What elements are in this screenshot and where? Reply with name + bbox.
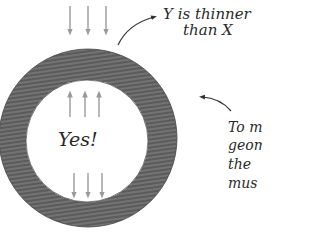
note-line-2: geom	[228, 138, 262, 152]
pointer-arrow-from-note	[202, 97, 231, 111]
label-y-thinner: Y is thinner	[163, 6, 251, 22]
label-yes: Yes!	[58, 128, 98, 150]
note-line-4: mus	[228, 176, 257, 190]
label-than-x: than X	[183, 22, 233, 38]
note-line-1: To m	[228, 120, 262, 134]
top-arrows-down	[70, 6, 106, 32]
pointer-arrow-to-label	[118, 17, 154, 45]
note-line-3: the	[228, 157, 251, 171]
